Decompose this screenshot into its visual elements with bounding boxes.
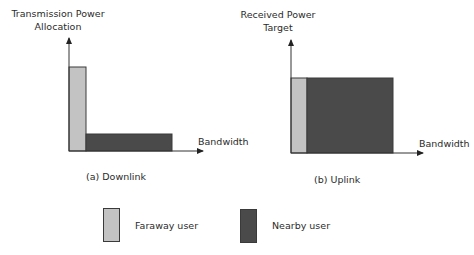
diagram-canvas: [0, 0, 474, 255]
downlink-y-label-line2: Allocation: [3, 21, 113, 33]
legend-faraway-swatch: [103, 208, 120, 242]
uplink-y-label-line1: Received Power: [231, 9, 325, 21]
legend-nearby-label: Nearby user: [272, 220, 330, 232]
downlink-chart: [69, 38, 203, 151]
downlink-caption: (a) Downlink: [86, 171, 146, 183]
uplink-chart: [291, 40, 423, 153]
legend-faraway-label: Faraway user: [135, 220, 198, 232]
downlink-faraway-bar: [69, 67, 86, 151]
downlink-nearby-bar: [86, 134, 172, 151]
downlink-x-label: Bandwidth: [198, 136, 249, 148]
uplink-y-label-line2: Target: [231, 22, 325, 34]
uplink-caption: (b) Uplink: [314, 174, 360, 186]
uplink-x-label: Bandwidth: [419, 138, 470, 150]
downlink-y-label-line1: Transmission Power: [3, 8, 113, 20]
legend-nearby-swatch: [240, 209, 257, 243]
uplink-nearby-bar: [307, 78, 393, 153]
uplink-faraway-bar: [291, 78, 307, 153]
